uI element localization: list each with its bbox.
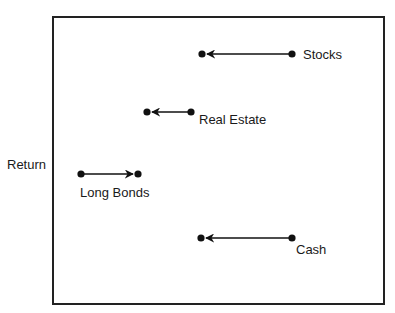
stocks-label: Stocks [303, 47, 342, 62]
cash-label: Cash [296, 242, 326, 257]
real-estate-label: Real Estate [199, 112, 266, 127]
stocks-arrow [198, 50, 295, 57]
long-bonds-label: Long Bonds [80, 185, 149, 200]
cash-arrow [197, 234, 295, 241]
real-estate-arrow [143, 108, 194, 115]
long-bonds-arrow [77, 170, 141, 177]
